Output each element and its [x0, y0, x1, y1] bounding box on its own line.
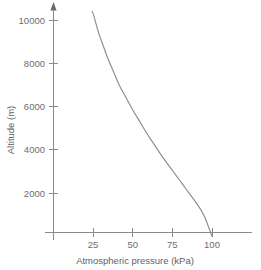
chart-background [0, 0, 261, 270]
x-tick-label-25: 25 [88, 239, 99, 250]
atmospheric-pressure-altitude-chart: 2000 4000 6000 8000 10000 25 50 75 100 A… [0, 0, 261, 270]
y-tick-label-6000: 6000 [24, 101, 45, 112]
chart-figure: 2000 4000 6000 8000 10000 25 50 75 100 A… [0, 0, 261, 270]
x-tick-label-75: 75 [167, 239, 178, 250]
x-tick-label-100: 100 [204, 239, 220, 250]
y-tick-label-4000: 4000 [24, 144, 45, 155]
y-tick-label-2000: 2000 [24, 188, 45, 199]
y-tick-label-10000: 10000 [19, 15, 45, 26]
x-tick-label-50: 50 [127, 239, 138, 250]
y-axis-title: Altitude (m) [5, 106, 16, 155]
y-tick-label-8000: 8000 [24, 58, 45, 69]
x-axis-title: Atmospheric pressure (kPa) [76, 255, 194, 266]
